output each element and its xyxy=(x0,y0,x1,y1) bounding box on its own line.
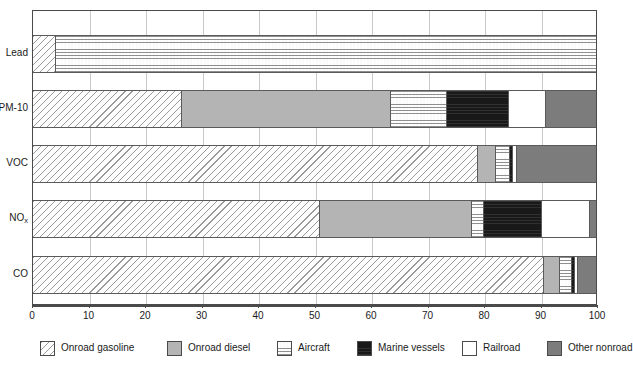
bar-segment-marine-vessels xyxy=(484,201,542,237)
legend-label: Other nonroad xyxy=(568,342,633,354)
bar-segment-aircraft xyxy=(496,146,511,182)
x-tick-mark xyxy=(371,305,372,308)
legend-swatch-onroad-diesel xyxy=(167,341,182,356)
bar-segment-aircraft xyxy=(56,36,596,72)
bar-row xyxy=(33,256,596,294)
legend-label: Onroad gasoline xyxy=(61,342,134,354)
bar-segment-onroad-diesel xyxy=(182,91,391,127)
legend-item-marine-vessels[interactable]: Marine vessels xyxy=(357,341,445,356)
bar-segment-other-nonroad xyxy=(578,257,596,293)
x-tick-label: 70 xyxy=(422,310,433,322)
legend-label: Onroad diesel xyxy=(188,342,250,354)
x-tick-label: 40 xyxy=(252,310,263,322)
bar-row xyxy=(33,145,596,183)
x-tick-mark xyxy=(597,305,598,308)
bar-segment-aircraft xyxy=(391,91,447,127)
x-tick-mark xyxy=(541,305,542,308)
bar-segment-onroad-diesel xyxy=(544,257,560,293)
x-tick-label: 90 xyxy=(535,310,546,322)
x-tick-label: 50 xyxy=(309,310,320,322)
bar-segment-aircraft xyxy=(472,201,484,237)
bar-segment-other-nonroad xyxy=(546,91,596,127)
bar-segment-onroad-gasoline xyxy=(33,91,182,127)
legend-swatch-onroad-gasoline xyxy=(40,341,55,356)
bar-segment-onroad-gasoline xyxy=(33,201,320,237)
bar-row xyxy=(33,200,596,238)
legend-item-other-nonroad[interactable]: Other nonroad xyxy=(547,341,633,356)
x-tick-label: 20 xyxy=(139,310,150,322)
legend-item-onroad-diesel[interactable]: Onroad diesel xyxy=(167,341,250,356)
legend-label: Aircraft xyxy=(298,342,330,354)
bar-segment-aircraft xyxy=(560,257,572,293)
category-label-no: NOx xyxy=(0,212,28,224)
category-label-co: CO xyxy=(0,268,28,279)
x-tick-mark xyxy=(32,305,33,308)
x-tick-mark xyxy=(202,305,203,308)
x-tick-mark xyxy=(145,305,146,308)
x-tick-label: 30 xyxy=(196,310,207,322)
x-tick-label: 100 xyxy=(589,310,606,322)
legend-swatch-aircraft xyxy=(277,341,292,356)
legend-item-aircraft[interactable]: Aircraft xyxy=(277,341,330,356)
bars-layer xyxy=(33,11,596,304)
bar-segment-onroad-gasoline xyxy=(33,257,544,293)
bar-row xyxy=(33,90,596,128)
bar-segment-onroad-gasoline xyxy=(33,146,478,182)
chart-legend: Onroad gasolineOnroad dieselAircraftMari… xyxy=(32,337,602,359)
legend-item-onroad-gasoline[interactable]: Onroad gasoline xyxy=(40,341,134,356)
category-label-voc: VOC xyxy=(0,157,28,168)
bar-segment-onroad-gasoline xyxy=(33,36,56,72)
x-tick-mark xyxy=(428,305,429,308)
bar-segment-railroad xyxy=(542,201,590,237)
legend-swatch-other-nonroad xyxy=(547,341,562,356)
x-tick-mark xyxy=(484,305,485,308)
legend-swatch-railroad xyxy=(462,341,477,356)
legend-item-railroad[interactable]: Railroad xyxy=(462,341,520,356)
x-tick-label: 60 xyxy=(365,310,376,322)
legend-swatch-marine-vessels xyxy=(357,341,372,356)
legend-label: Marine vessels xyxy=(378,342,445,354)
bar-segment-railroad xyxy=(509,91,546,127)
category-label-pm10: PM-10 xyxy=(0,102,28,113)
x-tick-label: 80 xyxy=(478,310,489,322)
category-label-lead: Lead xyxy=(0,47,28,58)
bar-segment-onroad-diesel xyxy=(320,201,472,237)
bar-row xyxy=(33,35,596,73)
bar-segment-other-nonroad xyxy=(590,201,596,237)
x-tick-mark xyxy=(89,305,90,308)
x-tick-mark xyxy=(315,305,316,308)
legend-label: Railroad xyxy=(483,342,520,354)
bar-segment-onroad-diesel xyxy=(478,146,496,182)
x-tick-label: 0 xyxy=(29,310,35,322)
bar-segment-other-nonroad xyxy=(517,146,596,182)
x-tick-label: 10 xyxy=(83,310,94,322)
x-tick-mark xyxy=(258,305,259,308)
bar-segment-marine-vessels xyxy=(447,91,509,127)
plot-area xyxy=(32,10,597,305)
